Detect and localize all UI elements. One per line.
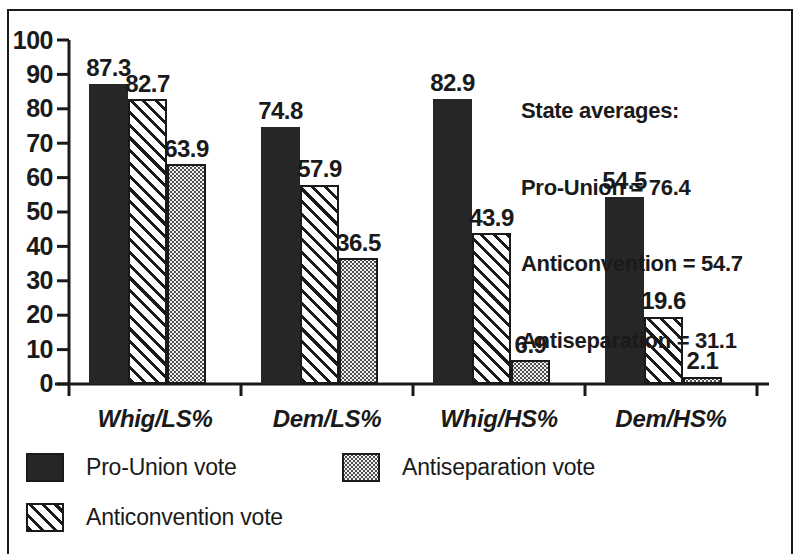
bar-value-label: 43.9 [462,206,521,230]
y-tick-label: 60 [9,165,53,190]
annotation-line: Antiseparation = 31.1 [521,328,743,354]
bar-value-label: 63.9 [157,137,216,161]
bar-value-label: 36.5 [329,231,388,255]
bar-value-label: 74.8 [251,99,310,123]
bar-antiseparation-dem-ls [339,258,378,384]
x-category-label: Whig/LS% [75,407,235,431]
bar-value-label: 57.9 [290,157,349,181]
bar-pro-union-whig-ls [89,84,128,384]
y-tick-label: 40 [9,234,53,259]
legend-item-antiseparation: Antiseparation vote [342,453,595,482]
state-averages-annotation: State averages: Pro-Union = 76.4 Anticon… [521,47,743,404]
y-tick-label: 30 [9,268,53,293]
x-category-label: Dem/LS% [247,407,407,431]
bar-pro-union-whig-hs [433,99,472,384]
legend-swatch-hatched-icon [26,503,64,532]
legend-label: Pro-Union vote [86,456,237,479]
annotation-heading: State averages: [521,98,743,124]
legend-item-anticonvention: Anticonvention vote [26,503,283,532]
legend-swatch-dotted-icon [342,453,380,482]
chart-legend: Pro-Union vote Antiseparation vote Antic… [9,441,795,551]
bar-value-label: 82.7 [118,72,177,96]
bar-value-label: 82.9 [423,71,482,95]
annotation-line: Pro-Union = 76.4 [521,175,743,201]
y-tick-label: 70 [9,131,53,156]
y-tick-label: 20 [9,302,53,327]
y-tick-label: 0 [9,371,53,396]
x-category-label: Whig/HS% [419,407,579,431]
bar-anticonvention-whig-hs [472,233,511,384]
y-tick-label: 80 [9,96,53,121]
legend-label: Antiseparation vote [402,456,595,479]
bar-antiseparation-whig-ls [167,164,206,384]
y-tick-label: 90 [9,62,53,87]
y-tick-label: 100 [9,28,53,53]
legend-label: Anticonvention vote [86,506,283,529]
y-tick-label: 50 [9,199,53,224]
legend-swatch-solid-icon [26,453,64,482]
legend-item-pro-union: Pro-Union vote [26,453,237,482]
y-tick-label: 10 [9,337,53,362]
x-category-label: Dem/HS% [591,407,751,431]
plot-area: 100 90 80 70 60 50 40 30 20 10 0 87.3 82… [9,11,795,431]
annotation-line: Anticonvention = 54.7 [521,251,743,277]
bar-anticonvention-dem-ls [300,185,339,384]
chart-frame: 100 90 80 70 60 50 40 30 20 10 0 87.3 82… [7,9,793,554]
